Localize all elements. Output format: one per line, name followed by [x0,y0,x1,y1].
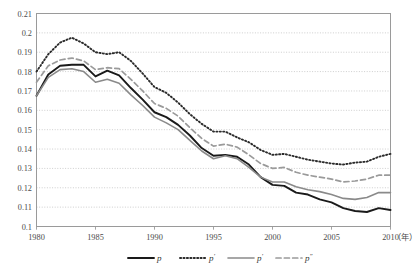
grid-lines [37,14,391,208]
y-tick-label: 0.1 [22,223,32,232]
y-tick-label: 0.19 [17,48,32,57]
y-tick-label: 0.12 [17,184,32,193]
legend-label-2: p′ [208,252,216,263]
y-tick-label: 0.18 [17,68,32,77]
data-series-group [37,38,391,212]
x-tick-label: 1985 [87,233,104,242]
chart-legend: pp′p′p″ [128,252,313,263]
y-tick-label: 0.11 [18,203,32,212]
y-axis-ticks: 0.10.110.120.130.140.150.160.170.180.190… [17,10,32,232]
series-line-1 [37,65,391,212]
x-tick-label: 2005 [323,233,340,242]
y-tick-label: 0.21 [17,10,32,19]
legend-label-4: p″ [304,252,313,263]
x-tick-label: 1990 [146,233,163,242]
chart-plot-area: 0.10.110.120.130.140.150.160.170.180.190… [0,0,420,271]
y-tick-label: 0.13 [17,164,32,173]
x-axis-unit-label: （年） [393,232,417,242]
plot-frame [37,14,391,227]
y-tick-label: 0.17 [17,87,32,96]
chart-figure: 0.10.110.120.130.140.150.160.170.180.190… [0,0,420,271]
y-tick-label: 0.2 [22,29,32,38]
x-axis-ticks: 1980198519901995200020052010（年） [28,227,416,243]
legend-label-3: p′ [256,252,264,263]
y-tick-label: 0.15 [17,126,32,135]
y-tick-label: 0.14 [17,145,32,154]
chart-svg: 0.10.110.120.130.140.150.160.170.180.190… [0,0,420,271]
x-tick-label: 2000 [264,233,281,242]
x-tick-label: 1980 [28,233,45,242]
x-tick-label: 1995 [205,233,222,242]
y-tick-label: 0.16 [17,106,32,115]
legend-label-1: p [156,253,162,263]
plot-border [37,14,391,227]
